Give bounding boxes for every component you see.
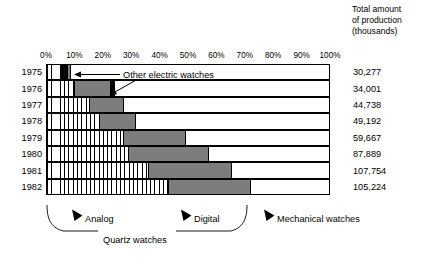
year-label: 1979 [8,133,42,143]
bar-segment-mech [136,114,330,128]
legend-pointer-analog [72,210,83,222]
bar-row [46,113,330,129]
year-label: 1982 [8,182,42,192]
plot-area [46,64,330,195]
bar-segment-other [61,65,68,79]
legend-pointer-digital [181,210,192,222]
bar-segment-analog [47,81,75,95]
bar-segment-mech [186,131,330,145]
bar-segment-mech [115,81,330,95]
brace-label-quartz: Quartz watches [103,235,167,246]
total-value: 34,001 [353,84,381,94]
bar-segment-analog [47,131,124,145]
x-axis-tick-80: 80% [265,51,281,61]
bar-segment-analog [47,147,129,161]
bar-segment-digital [75,81,111,95]
x-axis-tick-0: 0% [40,51,52,61]
bar-row [46,97,330,113]
bar-segment-mech [209,147,330,161]
bar-segment-mech [124,98,330,112]
bar-segment-digital [100,114,137,128]
total-value: 107,754 [353,166,386,176]
bar-segment-digital [169,180,251,194]
legend-pointer-mechanical [264,210,275,222]
bar-segment-analog [47,163,149,177]
bar-segment-digital [124,131,186,145]
bar-segment-digital [129,147,209,161]
legend-label-analog: Analog [85,214,114,225]
x-axis-tick-10: 10% [66,51,82,61]
total-value: 87,889 [353,149,381,159]
bar-segment-digital [149,163,231,177]
year-label: 1977 [8,100,42,110]
x-axis-tick-20: 20% [95,51,111,61]
x-axis-tick-100: 100% [320,51,341,61]
year-label: 1978 [8,116,42,126]
bar-row [46,162,330,178]
year-label: 1975 [8,67,42,77]
total-caption-line-2: of production [352,15,430,26]
total-caption-line-3: (thousands) [352,26,430,37]
x-axis-tick-90: 90% [293,51,309,61]
bar-segment-mech [251,180,330,194]
bar-segment-analog [47,65,61,79]
bar-row [46,130,330,146]
x-axis-tick-labels: 0%10%20%30%40%50%60%70%80%90%100% [0,51,431,63]
total-value: 49,192 [353,116,381,126]
bar-segment-analog [47,180,169,194]
x-axis-tick-40: 40% [151,51,167,61]
bar-segment-digital [90,98,124,112]
total-value: 44,738 [353,100,381,110]
x-axis-tick-50: 50% [180,51,196,61]
legend-label-digital: Digital [194,214,220,225]
bar-row [46,80,330,96]
year-label: 1981 [8,166,42,176]
total-production-caption: Total amount of production (thousands) [352,4,430,38]
x-axis-tick-60: 60% [208,51,224,61]
chart-root: Total amount of production (thousands) 0… [0,0,431,265]
total-value: 59,667 [353,133,381,143]
other-electric-watches-annotation: Other electric watches [123,70,214,80]
bar-row [46,179,330,195]
year-label: 1976 [8,84,42,94]
year-label: 1980 [8,149,42,159]
bar-segment-analog [47,114,100,128]
bar-row [46,146,330,162]
bar-segment-mech [232,163,330,177]
legend-label-mechanical: Mechanical watches [277,214,360,225]
total-caption-line-1: Total amount [352,4,430,15]
bar-segment-analog [47,98,90,112]
total-value: 105,224 [353,182,386,192]
x-axis-tick-70: 70% [237,51,253,61]
x-axis-tick-30: 30% [123,51,139,61]
total-value: 30,277 [353,67,381,77]
